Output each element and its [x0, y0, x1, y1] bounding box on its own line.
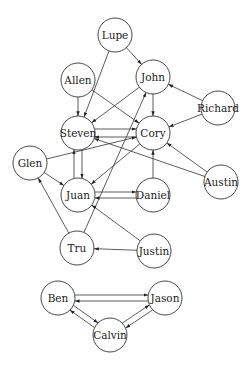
node-label: Glen [18, 157, 43, 169]
node-label: Juan [65, 189, 90, 201]
node-label: Daniel [136, 189, 171, 201]
edge-calvin-to-jason [122, 305, 149, 323]
node-tru: Tru [60, 231, 94, 265]
nodes-layer: LupeAllenJohnRichardStevenCoryGlenAustin… [13, 18, 239, 352]
node-label: Justin [138, 245, 170, 257]
edge-tru-to-john [84, 93, 146, 233]
node-label: Richard [197, 102, 239, 114]
node-john: John [136, 60, 170, 94]
edge-richard-to-cory [169, 114, 202, 127]
node-steven: Steven [60, 116, 97, 150]
node-daniel: Daniel [136, 178, 171, 212]
edge-cory-to-juan [91, 144, 140, 184]
edge-calvin-to-ben [70, 310, 95, 328]
edge-jason-to-calvin [126, 310, 153, 328]
node-jason: Jason [148, 281, 182, 315]
edge-richard-to-john [168, 84, 202, 100]
node-label: Cory [140, 127, 165, 139]
node-label: Jason [150, 292, 180, 304]
edge-john-to-steven [92, 87, 140, 123]
node-austin: Austin [203, 165, 238, 199]
node-allen: Allen [61, 63, 95, 97]
node-label: Steven [60, 127, 97, 139]
node-label: Lupe [102, 29, 129, 41]
edge-austin-to-cory [167, 143, 207, 172]
node-glen: Glen [13, 146, 47, 180]
node-cory: Cory [136, 116, 170, 150]
node-label: Austin [203, 176, 238, 188]
node-label: Calvin [93, 329, 127, 341]
edge-lupe-to-john [126, 48, 141, 65]
edge-allen-to-cory [92, 90, 139, 123]
node-label: John [140, 71, 165, 83]
node-justin: Justin [137, 234, 171, 268]
social-network-graph: LupeAllenJohnRichardStevenCoryGlenAustin… [0, 0, 244, 367]
node-richard: Richard [197, 91, 239, 125]
edge-justin-to-juan [92, 205, 141, 241]
edge-justin-to-tru [94, 249, 137, 251]
node-lupe: Lupe [98, 18, 132, 52]
node-juan: Juan [61, 178, 95, 212]
node-ben: Ben [41, 281, 75, 315]
node-label: Ben [48, 292, 69, 304]
node-label: Allen [63, 74, 92, 86]
edge-glen-to-juan [44, 172, 64, 185]
node-calvin: Calvin [93, 318, 127, 352]
node-label: Tru [68, 242, 87, 254]
edge-ben-to-calvin [73, 305, 98, 323]
